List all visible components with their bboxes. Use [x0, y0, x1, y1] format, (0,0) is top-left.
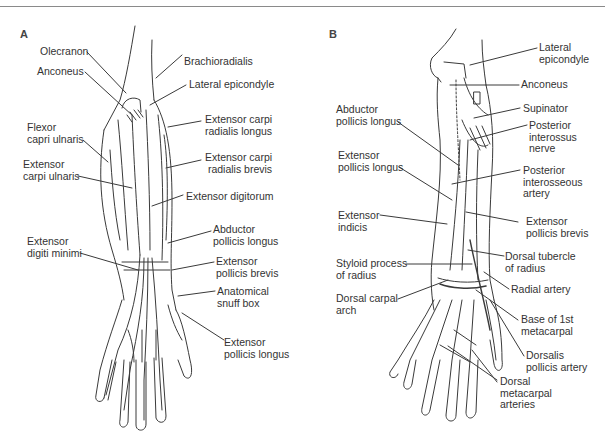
label-line: Extensor carpi	[205, 114, 272, 126]
label-line: Extensor	[338, 150, 403, 162]
label-extensor-pollicis-brevis-a: Extensor pollicis brevis	[216, 256, 278, 279]
label-base-of-1st-metacarpal: Base of 1st metacarpal	[521, 314, 574, 337]
label-line: pollicis longus	[224, 349, 289, 361]
label-line: of radius	[336, 270, 407, 282]
label-line: nerve	[529, 143, 577, 155]
label-line: Extensor	[216, 256, 278, 268]
label-line: pollicis brevis	[526, 228, 588, 240]
label-line: Extensor carpi	[205, 152, 272, 164]
label-line: carpi ulnaris	[23, 171, 80, 183]
label-line: pollicis brevis	[216, 268, 278, 280]
label-line: Base of 1st	[521, 314, 574, 326]
label-line: metacarpal	[521, 326, 574, 338]
label-posterior-interossus-nerve: Posterior interossus nerve	[529, 120, 577, 155]
label-line: Posterior	[529, 120, 577, 132]
label-line: Abductor	[213, 224, 278, 236]
label-dorsal-tubercle-of-radius: Dorsal tubercle of radius	[505, 251, 576, 274]
label-line: Flexor	[27, 122, 84, 134]
leaders-b	[380, 48, 537, 382]
label-line: artery	[523, 188, 583, 200]
label-anconeus-b: Anconeus	[521, 79, 568, 91]
forearm-b-drawing	[390, 29, 503, 421]
label-line: Dorsal	[500, 376, 552, 388]
label-line: Extensor	[526, 216, 588, 228]
label-extensor-digiti-minimi: Extensor digiti minimi	[27, 236, 82, 259]
label-anconeus-a: Anconeus	[37, 66, 84, 78]
label-dorsal-carpal-arch: Dorsal carpal arch	[336, 293, 398, 316]
label-line: of radius	[505, 263, 576, 275]
label-dorsal-metacarpal-arteries: Dorsal metacarpal arteries	[500, 376, 552, 411]
label-line: pollicis longus	[338, 162, 403, 174]
label-line: Styloid process	[336, 258, 407, 270]
label-line: Extensor	[27, 236, 82, 248]
label-flexor-carpi-ulnaris: Flexor capri ulnaris	[27, 122, 84, 145]
panel-letter-a: A	[20, 28, 28, 40]
label-line: Extensor	[23, 159, 80, 171]
label-line: epicondyle	[539, 54, 589, 66]
label-line: radialis longus	[205, 126, 272, 138]
label-line: arteries	[500, 399, 552, 411]
label-line: Abductor	[336, 104, 401, 116]
panel-letter-b: B	[329, 28, 337, 40]
label-line: Anatomical	[217, 286, 269, 298]
label-olecranon: Olecranon	[40, 46, 88, 58]
label-extensor-pollicis-brevis-b: Extensor pollicis brevis	[526, 216, 588, 239]
label-line: radialis brevis	[205, 164, 272, 176]
label-extensor-digitorum: Extensor digitorum	[186, 191, 274, 203]
label-ext-carpi-radialis-brevis: Extensor carpi radialis brevis	[205, 152, 272, 175]
label-line: arch	[336, 305, 398, 317]
label-lateral-epicondyle-b: Lateral epicondyle	[539, 42, 589, 65]
label-supinator: Supinator	[523, 103, 568, 115]
label-line: digiti minimi	[27, 248, 82, 260]
label-anatomical-snuff-box: Anatomical snuff box	[217, 286, 269, 309]
label-extensor-carpi-ulnaris: Extensor carpi ulnaris	[23, 159, 80, 182]
label-line: Dorsal carpal	[336, 293, 398, 305]
forearm-a-drawing	[96, 26, 192, 430]
label-line: Dorsalis	[526, 350, 587, 362]
label-abductor-pollicis-longus-a: Abductor pollicis longus	[213, 224, 278, 247]
label-extensor-pollicis-longus-b: Extensor pollicis longus	[338, 150, 403, 173]
label-line: Lateral	[539, 42, 589, 54]
label-lateral-epicondyle-a: Lateral epicondyle	[189, 79, 274, 91]
label-posterior-interosseous-artery: Posterior interosseous artery	[523, 165, 583, 200]
label-radial-artery: Radial artery	[511, 284, 571, 296]
label-line: snuff box	[217, 298, 269, 310]
anatomy-illustration	[0, 0, 605, 438]
label-styloid-process-of-radius: Styloid process of radius	[336, 258, 407, 281]
label-line: indicis	[338, 222, 379, 234]
label-line: pollicis longus	[336, 116, 401, 128]
label-line: pollicis longus	[213, 236, 278, 248]
label-extensor-indicis: Extensor indicis	[338, 210, 379, 233]
label-line: capri ulnaris	[27, 134, 84, 146]
label-line: Posterior	[523, 165, 583, 177]
label-extensor-pollicis-longus-a: Extensor pollicis longus	[224, 337, 289, 360]
label-line: Dorsal tubercle	[505, 251, 576, 263]
label-ext-carpi-radialis-longus: Extensor carpi radialis longus	[205, 114, 272, 137]
label-dorsalis-pollicis-artery: Dorsalis pollicis artery	[526, 350, 587, 373]
label-line: Extensor	[338, 210, 379, 222]
label-line: pollicis artery	[526, 362, 587, 374]
label-abductor-pollicis-longus-b: Abductor pollicis longus	[336, 104, 401, 127]
label-brachioradialis: Brachioradialis	[184, 56, 253, 68]
label-line: Extensor	[224, 337, 289, 349]
